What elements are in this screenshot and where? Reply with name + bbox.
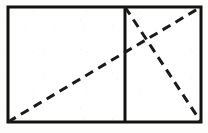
figure-canvas	[0, 0, 208, 133]
geometry-diagram	[0, 0, 208, 133]
